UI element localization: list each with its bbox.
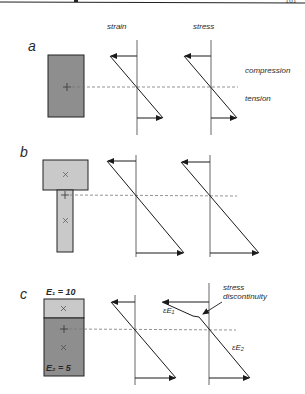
stress-column-label: stress xyxy=(193,22,214,31)
stress-profile xyxy=(181,162,259,253)
panel-b xyxy=(43,155,259,257)
page-number: 161 xyxy=(285,0,297,4)
rect-section xyxy=(48,55,84,117)
panel-c xyxy=(44,283,250,385)
panel-a xyxy=(48,40,238,135)
stress-profile-discontinuous xyxy=(162,302,250,378)
flange xyxy=(43,160,88,190)
neutral-axis xyxy=(70,195,237,196)
tension-label: tension xyxy=(245,94,271,103)
panel-a-label: a xyxy=(28,38,36,54)
figure-canvas xyxy=(0,0,305,394)
strain-column-label: strain xyxy=(107,22,127,31)
bottom-stress-label: εE₂ xyxy=(232,343,244,352)
top-stress-label: εE₁ xyxy=(163,306,174,315)
strain-profile xyxy=(107,161,184,253)
header-rule xyxy=(0,2,305,3)
panel-c-label: c xyxy=(20,286,27,302)
header-mark xyxy=(74,0,78,2)
neutral-axis xyxy=(69,329,236,330)
compression-label: compression xyxy=(245,66,290,75)
top-material xyxy=(44,299,84,318)
discontinuity-pointer-arrow xyxy=(203,302,222,314)
panel-b-label: b xyxy=(20,144,28,160)
bottom-modulus-label: E₂ = 5 xyxy=(46,363,71,373)
stress-discontinuity-label: stress discontinuity xyxy=(223,283,267,301)
top-modulus-label: E₁ = 10 xyxy=(46,287,75,297)
